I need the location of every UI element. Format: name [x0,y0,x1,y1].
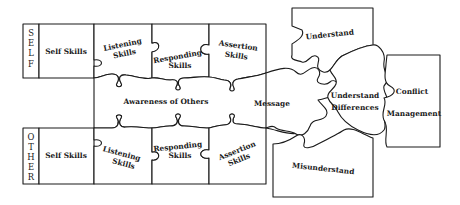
svg-text:E: E [28,38,34,48]
svg-text:L: L [28,48,34,58]
svg-text:E: E [28,162,34,172]
misunderstand-piece [273,129,373,197]
svg-text:S: S [28,28,34,38]
management-label: Management [387,109,442,118]
svg-text:T: T [28,142,34,152]
other-responding-label-2: Skills [168,151,191,160]
awareness-label: Awareness of Others [123,97,209,106]
understand-differences-label-2: Differences [331,103,378,112]
self-responding-label-2: Skills [168,61,191,70]
side-label-self: S E L F [28,28,34,69]
other-self-skills-label: Self Skills [45,151,87,160]
svg-text:R: R [28,172,35,182]
message-label: Message [254,99,290,108]
svg-text:O: O [28,132,35,142]
svg-text:H: H [27,152,34,162]
understand-differences-label: Understand [331,91,380,100]
conflict-management-piece [383,55,440,147]
side-label-other: O T H E R [27,132,35,182]
svg-text:F: F [28,59,34,69]
puzzle-diagram: S E L F O T H E R Self Skills Listening … [0,0,460,205]
conflict-label: Conflict [396,87,429,96]
self-skills-label: Self Skills [45,47,87,56]
